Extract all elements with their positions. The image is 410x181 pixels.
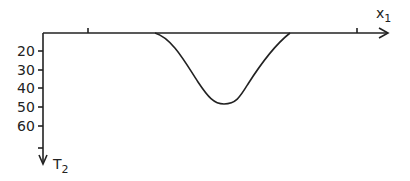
y-tick-label: 50: [17, 100, 35, 114]
y-tick-label: 40: [17, 81, 35, 95]
x-axis-label-sub: 1: [384, 12, 391, 25]
diagram-canvas: [0, 0, 410, 181]
trough-curve: [155, 33, 290, 104]
y-tick-label: 60: [17, 119, 35, 133]
y-tick-label: 30: [17, 63, 35, 77]
y-axis-label-main: T: [53, 156, 62, 172]
y-tick-label: 20: [17, 44, 35, 58]
y-axis-label-sub: 2: [62, 163, 69, 176]
y-axis-label: T2: [53, 157, 69, 175]
x-axis-label: x1: [376, 6, 391, 24]
